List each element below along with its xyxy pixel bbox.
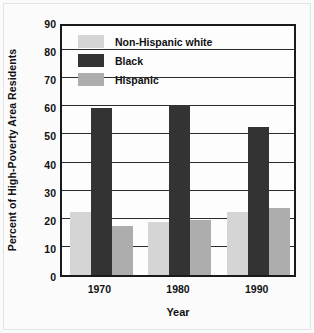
x-tick-label: 1990	[222, 283, 292, 295]
bar-group-1990	[219, 26, 298, 275]
y-tick-label: 50	[30, 131, 56, 142]
bar	[169, 105, 190, 275]
legend-item: Hispanic	[78, 70, 212, 89]
y-tick-label: 70	[30, 75, 56, 86]
y-tick-label: 60	[30, 103, 56, 114]
y-axis-title: Percent of High-Poverty Area Residents	[0, 0, 24, 300]
y-axis-tick-labels: 9080706050403020100	[26, 24, 56, 277]
bar	[70, 212, 91, 275]
legend-swatch	[78, 35, 104, 48]
legend-swatch	[78, 73, 104, 86]
y-tick-label: 10	[30, 244, 56, 255]
y-tick-label: 90	[30, 19, 56, 30]
legend-label: Hispanic	[115, 74, 159, 86]
x-tick-label: 1980	[143, 283, 213, 295]
bar	[112, 226, 133, 275]
bar	[227, 212, 248, 275]
legend-item: Non-Hispanic white	[78, 32, 212, 51]
legend-item: Black	[78, 51, 212, 70]
legend-label: Non-Hispanic white	[115, 36, 212, 48]
x-tick-label: 1970	[64, 283, 134, 295]
y-axis-title-label: Percent of High-Poverty Area Residents	[6, 49, 18, 251]
y-tick-label: 30	[30, 187, 56, 198]
bar	[248, 127, 269, 275]
y-tick-label: 80	[30, 47, 56, 58]
legend-swatch	[78, 54, 104, 67]
legend: Non-Hispanic whiteBlackHispanic	[78, 32, 212, 89]
bar	[269, 208, 290, 275]
legend-label: Black	[115, 55, 143, 67]
x-axis-title: Year	[60, 306, 296, 318]
bar	[148, 222, 169, 275]
y-tick-label: 40	[30, 159, 56, 170]
bar	[91, 108, 112, 275]
bar-chart-figure: Percent of High-Poverty Area Residents 9…	[0, 0, 314, 333]
bar	[190, 220, 211, 275]
y-tick-label: 20	[30, 216, 56, 227]
y-tick-label: 0	[30, 272, 56, 283]
